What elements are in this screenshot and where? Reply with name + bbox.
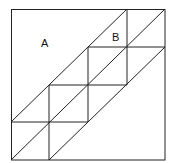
diagram-canvas: A B xyxy=(0,0,175,163)
diagonal-line-1 xyxy=(11,9,127,122)
diagonal-line-2 xyxy=(11,9,165,160)
diagonal-line-3 xyxy=(49,47,165,160)
label-b: B xyxy=(112,31,119,43)
label-a: A xyxy=(41,37,49,49)
